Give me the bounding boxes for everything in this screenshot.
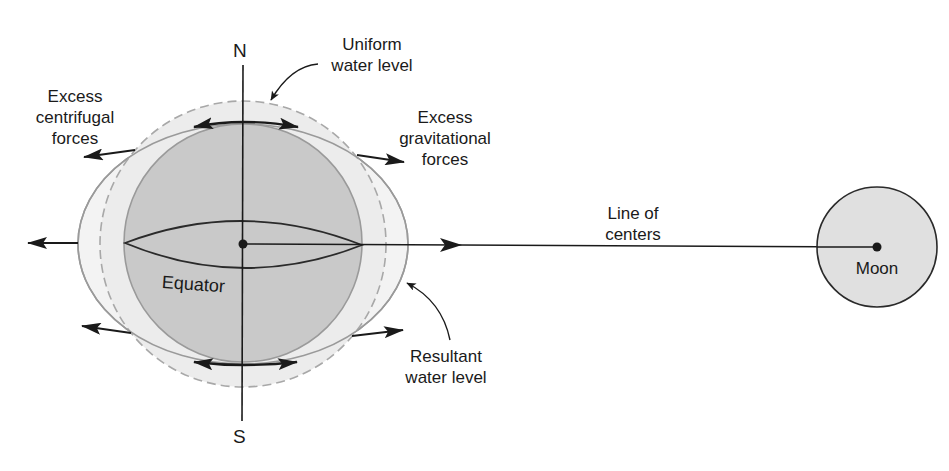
gravitational-label-line-1: Excess xyxy=(390,107,500,128)
resultant-label-line-2: water level xyxy=(390,367,502,388)
centrifugal-label-line-3: forces xyxy=(24,128,126,149)
uniform-water-level-label: Uniform water level xyxy=(322,34,422,76)
excess-gravitational-label: Excess gravitational forces xyxy=(390,107,500,170)
centrifugal-label-line-2: centrifugal xyxy=(24,107,126,128)
uniform-label-line-1: Uniform xyxy=(322,34,422,55)
north-label: N xyxy=(233,41,247,61)
equator-label: Equator xyxy=(161,272,225,296)
centrifugal-arrow-upper xyxy=(84,150,135,157)
south-label: S xyxy=(233,427,246,447)
diagram-canvas xyxy=(0,0,949,471)
uniform-water-level-pointer xyxy=(271,64,318,100)
centrifugal-label-line-1: Excess xyxy=(24,86,126,107)
line-of-centers-line-2: centers xyxy=(588,224,678,245)
moon-label: Moon xyxy=(847,259,907,279)
uniform-label-line-2: water level xyxy=(322,55,422,76)
earth-center-dot xyxy=(239,240,248,249)
resultant-water-level-label: Resultant water level xyxy=(390,346,502,388)
gravitational-label-line-3: forces xyxy=(390,149,500,170)
line-of-centers-line-1: Line of xyxy=(588,203,678,224)
tidal-forces-diagram: N S Uniform water level Excess centrifug… xyxy=(0,0,949,471)
gravitational-arrow-lower xyxy=(352,330,403,336)
gravitational-label-line-2: gravitational xyxy=(390,128,500,149)
line-of-centers-label: Line of centers xyxy=(588,203,678,245)
excess-centrifugal-label: Excess centrifugal forces xyxy=(24,86,126,149)
moon-center-dot xyxy=(873,243,882,252)
resultant-water-level-pointer xyxy=(407,283,450,340)
resultant-label-line-1: Resultant xyxy=(390,346,502,367)
